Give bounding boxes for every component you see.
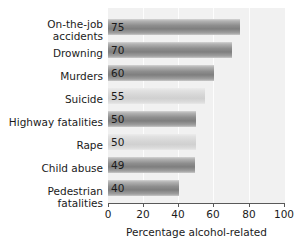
- gridline-20: [143, 8, 144, 203]
- x-axis-tick-label: 100: [264, 208, 294, 220]
- category-label: Highway fatalities: [0, 117, 103, 129]
- bar-value-label: 50: [111, 111, 124, 127]
- x-axis-tick: [108, 203, 109, 207]
- x-axis-tick: [143, 203, 144, 207]
- x-axis-tick-label: 60: [193, 208, 233, 220]
- category-label: Rape: [0, 140, 103, 152]
- bar-pedestrian-fatalities: 40: [108, 180, 179, 196]
- bar-value-label: 70: [111, 42, 124, 58]
- bar-value-label: 50: [111, 134, 124, 150]
- bar-child-abuse: 49: [108, 157, 195, 173]
- gridline-80: [249, 8, 250, 203]
- x-axis-line: [108, 203, 285, 204]
- bar-suicide: 55: [108, 88, 205, 104]
- bar-value-label: 55: [111, 88, 124, 104]
- category-label-column: On-the-job accidents Drowning Murders Su…: [0, 12, 103, 199]
- x-axis-tick-label: 80: [229, 208, 269, 220]
- category-label: Child abuse: [0, 163, 103, 175]
- bar-value-label: 40: [111, 180, 124, 196]
- x-axis-tick: [284, 203, 285, 207]
- bar-chart: On-the-job accidents Drowning Murders Su…: [0, 0, 294, 248]
- x-axis-title: Percentage alcohol-related: [108, 226, 285, 238]
- gridline-60: [213, 8, 214, 203]
- category-label: Drowning: [0, 48, 103, 60]
- x-axis-tick-label: 0: [88, 208, 128, 220]
- bar-on-the-job-accidents: 75: [108, 19, 240, 35]
- category-label: Murders: [0, 71, 103, 83]
- bar-value-label: 49: [111, 157, 124, 173]
- bar-drowning: 70: [108, 42, 232, 58]
- bar-murders: 60: [108, 65, 214, 81]
- plot-area: 75 70 60 55 50 50 49 40: [108, 8, 285, 203]
- x-axis-tick: [249, 203, 250, 207]
- bar-value-label: 75: [111, 19, 124, 35]
- category-label: Pedestrian fatalities: [0, 186, 103, 209]
- category-label: On-the-job accidents: [0, 19, 103, 42]
- gridline-40: [178, 8, 179, 203]
- x-axis-tick-label: 20: [123, 208, 163, 220]
- x-axis-tick: [213, 203, 214, 207]
- bar-value-label: 60: [111, 65, 124, 81]
- category-label: Suicide: [0, 94, 103, 106]
- bar-rape: 50: [108, 134, 196, 150]
- bar-highway-fatalities: 50: [108, 111, 196, 127]
- x-axis-tick-label: 40: [158, 208, 198, 220]
- x-axis-tick: [178, 203, 179, 207]
